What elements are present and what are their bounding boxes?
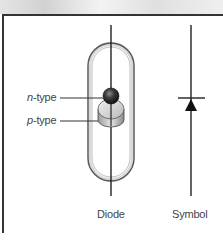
p-type-label-suffix: -type	[33, 114, 56, 126]
diode-schematic-symbol	[178, 25, 205, 196]
symbol-caption: Symbol	[172, 208, 207, 220]
n-type-label-suffix: -type	[33, 91, 56, 103]
n-type-label: n-type	[27, 91, 56, 103]
p-type-label: p-type	[27, 114, 56, 126]
symbol-anode-triangle	[185, 99, 197, 111]
n-type-sphere	[103, 88, 119, 104]
diode-caption: Diode	[97, 208, 125, 220]
